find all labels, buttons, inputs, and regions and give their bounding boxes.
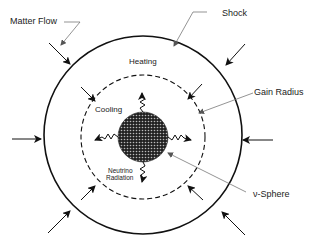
- gain-radius-label: Gain Radius: [254, 87, 304, 97]
- label-pointers: [61, 12, 253, 192]
- supernova-diagram: Matter Flow Shock Heating Gain Radius Co…: [0, 0, 310, 239]
- nu-sphere-core: [118, 112, 168, 162]
- nu-sphere-label: ν-Sphere: [253, 189, 290, 199]
- heating-label: Heating: [129, 57, 157, 66]
- cooling-label: Cooling: [95, 105, 122, 114]
- shock-label: Shock: [222, 8, 248, 18]
- neutrino-radiation-label-line2: Radiation: [106, 174, 134, 181]
- neutrino-radiation-label-line1: Neutrino: [108, 167, 133, 174]
- matter-flow-label: Matter Flow: [10, 16, 58, 26]
